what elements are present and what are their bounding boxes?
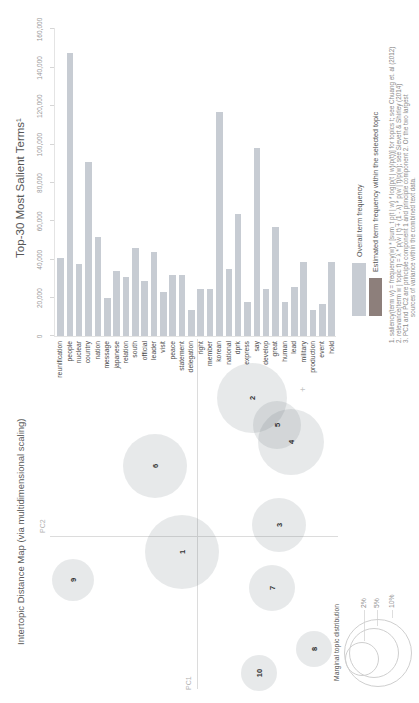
value-axis-tick-mark bbox=[50, 297, 54, 298]
term-label-delegation: delegation bbox=[187, 341, 195, 461]
overall-frequency-swatch bbox=[352, 263, 366, 316]
bar-official[interactable] bbox=[141, 281, 148, 337]
value-axis-tick-label: 40,000 bbox=[36, 240, 43, 280]
term-label-production: production bbox=[309, 341, 317, 461]
term-label-relation: relation bbox=[122, 341, 130, 461]
value-axis-tick-label: 80,000 bbox=[36, 163, 43, 203]
bar-dprk[interactable] bbox=[235, 214, 242, 337]
bar-event[interactable] bbox=[319, 304, 326, 337]
term-label-statement: statement bbox=[178, 341, 186, 461]
term-label-military: military bbox=[300, 341, 308, 461]
term-label-hold: hold bbox=[328, 341, 336, 461]
value-axis-tick-mark bbox=[50, 336, 54, 337]
bar-south[interactable] bbox=[132, 248, 139, 336]
term-label-national: national bbox=[225, 341, 233, 461]
bar-country[interactable] bbox=[85, 162, 92, 337]
value-axis-tick-label: 160,000 bbox=[36, 10, 43, 50]
term-label-message: message bbox=[103, 341, 111, 461]
term-label-leader: leader bbox=[150, 341, 158, 461]
topic-frequency-swatch bbox=[369, 278, 382, 316]
term-label-dprk: dprk bbox=[234, 341, 242, 461]
bar-lead[interactable] bbox=[291, 287, 298, 337]
bar-member[interactable] bbox=[207, 289, 214, 337]
bar-visit[interactable] bbox=[160, 292, 167, 336]
bar-great[interactable] bbox=[272, 227, 279, 336]
bar-reunification[interactable] bbox=[57, 258, 64, 337]
term-label-lead: lead bbox=[290, 341, 298, 461]
bar-korean[interactable] bbox=[216, 112, 223, 336]
value-axis-tick-label: 20,000 bbox=[36, 278, 43, 318]
topic-frequency-label: Estimated term frequency within the sele… bbox=[371, 112, 380, 272]
value-axis-tick-label: 0 bbox=[36, 317, 43, 357]
bar-relation[interactable] bbox=[123, 277, 130, 336]
pyldavis-rotated-stage: Intertopic Distance Map (via multidimens… bbox=[0, 0, 419, 703]
term-label-reunification: reunification bbox=[56, 341, 64, 461]
term-label-official: official bbox=[141, 341, 149, 461]
term-label-great: great bbox=[271, 341, 279, 461]
term-label-right: right bbox=[197, 341, 205, 461]
bar-people[interactable] bbox=[67, 53, 74, 337]
term-label-express: express bbox=[243, 341, 251, 461]
term-label-peace: peace bbox=[169, 341, 177, 461]
bar-chart-title: Top-30 Most Salient Terms¹ bbox=[14, 63, 26, 313]
screenshot-root: Intertopic Distance Map (via multidimens… bbox=[0, 0, 419, 703]
term-label-visit: visit bbox=[159, 341, 167, 461]
value-axis-tick-mark bbox=[50, 105, 54, 106]
term-label-human: human bbox=[281, 341, 289, 461]
bar-right[interactable] bbox=[197, 289, 204, 337]
value-axis-tick-mark bbox=[50, 259, 54, 260]
value-axis-tick-label: 140,000 bbox=[36, 48, 43, 88]
bar-delegation[interactable] bbox=[188, 310, 195, 337]
footnote-line-2: 2. relevance(term w | topic t) = λ * p(w… bbox=[395, 84, 402, 343]
bar-japanese[interactable] bbox=[113, 271, 120, 336]
bar-leader[interactable] bbox=[151, 252, 158, 336]
value-axis-tick-mark bbox=[50, 29, 54, 30]
value-axis-line bbox=[54, 28, 55, 337]
bar-human[interactable] bbox=[282, 302, 289, 337]
bar-express[interactable] bbox=[244, 302, 251, 337]
bar-national[interactable] bbox=[226, 269, 233, 336]
term-label-korean: korean bbox=[215, 341, 223, 461]
value-axis-tick-label: 120,000 bbox=[36, 86, 43, 126]
bar-statement[interactable] bbox=[179, 275, 186, 336]
bar-production[interactable] bbox=[310, 310, 317, 337]
term-label-say: say bbox=[253, 341, 261, 461]
term-label-japanese: japanese bbox=[113, 341, 121, 461]
term-label-event: event bbox=[318, 341, 326, 461]
bar-nation[interactable] bbox=[95, 237, 102, 337]
bar-develop[interactable] bbox=[263, 289, 270, 337]
bar-military[interactable] bbox=[300, 262, 307, 337]
term-label-develop: develop bbox=[262, 341, 270, 461]
value-axis-tick-label: 60,000 bbox=[36, 201, 43, 241]
value-axis-tick-mark bbox=[50, 67, 54, 68]
footnote-line-1: 1. saliency(term w) = frequency(w) * [su… bbox=[388, 47, 395, 343]
value-axis-tick-mark bbox=[50, 182, 54, 183]
term-label-south: south bbox=[131, 341, 139, 461]
term-label-nation: nation bbox=[94, 341, 102, 461]
value-axis-tick-mark bbox=[50, 144, 54, 145]
term-label-country: country bbox=[84, 341, 92, 461]
footnote-line-3: 3. PC1 and PC2 are principle component 1… bbox=[402, 94, 409, 343]
bar-hold[interactable] bbox=[328, 262, 335, 337]
term-label-people: people bbox=[66, 341, 74, 461]
overall-frequency-label: Overall term frequency bbox=[355, 184, 364, 257]
value-axis-tick-mark bbox=[50, 220, 54, 221]
term-label-member: member bbox=[206, 341, 214, 461]
bar-peace[interactable] bbox=[169, 275, 176, 336]
bar-nuclear[interactable] bbox=[76, 264, 83, 337]
salient-terms-panel: Top-30 Most Salient Terms¹ 020,00040,000… bbox=[0, 0, 419, 703]
bar-say[interactable] bbox=[254, 148, 261, 336]
footnote-line-4: sources of variance within the combined … bbox=[409, 177, 416, 317]
bar-message[interactable] bbox=[104, 298, 111, 336]
value-axis-tick-label: 100,000 bbox=[36, 125, 43, 165]
term-label-nuclear: nuclear bbox=[75, 341, 83, 461]
